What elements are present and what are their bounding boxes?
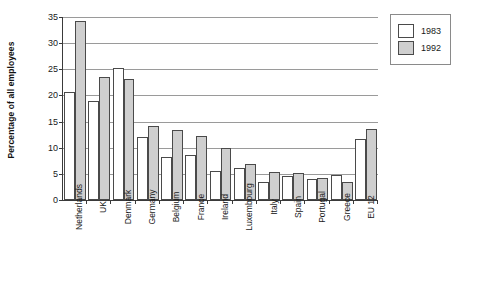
bar-1992 (99, 77, 110, 200)
legend: 1983 1992 (390, 14, 451, 65)
bar-group (136, 17, 160, 200)
bar-1983 (185, 155, 196, 200)
y-axis-tick-label: 0 (53, 195, 58, 205)
bar-series-container (63, 17, 378, 200)
bar-group (281, 17, 305, 200)
bar-group (160, 17, 184, 200)
x-axis-label-text: Spain (293, 196, 303, 218)
plot-area: 05101520253035 (62, 17, 378, 201)
x-axis-label-text: Luxembourg (244, 183, 254, 230)
legend-swatch-1992-icon (398, 41, 414, 55)
x-axis-label: Denmark (111, 205, 135, 283)
bar-group (208, 17, 232, 200)
x-axis-tick-mark (207, 200, 208, 204)
y-axis-tick-label: 25 (48, 64, 58, 74)
x-axis-tick-mark (86, 200, 87, 204)
x-axis-label-text: Germany (147, 190, 157, 225)
bar-group (233, 17, 257, 200)
bar-1983 (258, 182, 269, 200)
y-axis-title-text: Percentage of all employees (6, 41, 16, 158)
y-axis-tick-label: 10 (48, 143, 58, 153)
x-axis-label: Netherlands (62, 205, 86, 283)
bar-1983 (355, 139, 366, 200)
x-axis-label-text: Belgium (171, 192, 181, 223)
legend-swatch-1983-icon (398, 24, 414, 38)
x-axis-label-text: Netherlands (74, 184, 84, 230)
bar-1992 (172, 130, 183, 200)
x-axis-label-text: Denmark (123, 190, 133, 224)
legend-item-1983: 1983 (398, 24, 441, 38)
x-axis-tick-mark (159, 200, 160, 204)
x-axis-tick-mark (110, 200, 111, 204)
x-axis-label: Portugal (305, 205, 329, 283)
x-axis-tick-mark (353, 200, 354, 204)
x-axis-label: Spain (281, 205, 305, 283)
x-axis-label-text: France (196, 194, 206, 220)
bar-1992 (196, 136, 207, 200)
legend-label-1992: 1992 (421, 43, 441, 53)
x-axis-label: France (184, 205, 208, 283)
bar-group (87, 17, 111, 200)
y-axis-tick-label: 35 (48, 12, 58, 22)
y-axis-tick-label: 15 (48, 117, 58, 127)
bar-group (354, 17, 378, 200)
legend-item-1992: 1992 (398, 41, 441, 55)
y-axis-tick-label: 30 (48, 38, 58, 48)
bar-group (63, 17, 87, 200)
x-axis-tick-mark (232, 200, 233, 204)
x-axis-tick-mark (135, 200, 136, 204)
bar-1992 (75, 21, 86, 200)
x-axis-label-text: Greece (342, 193, 352, 221)
x-axis-label-text: UK (98, 201, 108, 213)
x-axis-label-text: EU 12 (366, 195, 376, 219)
bar-1983 (210, 171, 221, 200)
legend-label-1983: 1983 (421, 26, 441, 36)
x-axis-tick-mark (329, 200, 330, 204)
bar-group (184, 17, 208, 200)
x-axis-tick-mark (377, 200, 378, 204)
bar-group (257, 17, 281, 200)
bar-1983 (88, 101, 99, 200)
x-axis-label: UK (86, 205, 110, 283)
y-axis-title: Percentage of all employees (2, 0, 20, 200)
x-axis-label: Italy (257, 205, 281, 283)
bar-1983 (282, 176, 293, 200)
bar-group (305, 17, 329, 200)
x-axis-label: Luxembourg (232, 205, 256, 283)
x-axis-label-text: Portugal (317, 191, 327, 223)
x-axis-label-text: Italy (269, 199, 279, 215)
x-axis-tick-mark (183, 200, 184, 204)
x-axis-label: EU 12 (354, 205, 378, 283)
bar-group (111, 17, 135, 200)
bar-1983 (331, 175, 342, 200)
bar-1992 (221, 148, 232, 200)
bar-1992 (366, 129, 377, 200)
x-axis-label: Germany (135, 205, 159, 283)
x-axis-tick-mark (304, 200, 305, 204)
bar-group (330, 17, 354, 200)
x-axis-label: Greece (329, 205, 353, 283)
bar-chart: Percentage of all employees 051015202530… (0, 0, 492, 287)
x-axis-label: Belgium (159, 205, 183, 283)
x-axis-label-text: Ireland (220, 194, 230, 220)
bar-1983 (307, 179, 318, 200)
y-axis-tick-mark (59, 200, 63, 201)
bar-1992 (124, 79, 135, 200)
x-axis-tick-mark (280, 200, 281, 204)
bar-1992 (269, 172, 280, 200)
x-axis-labels: NetherlandsUKDenmarkGermanyBelgiumFrance… (62, 205, 378, 283)
x-axis-label: Ireland (208, 205, 232, 283)
y-axis-tick-label: 20 (48, 90, 58, 100)
x-axis-tick-mark (256, 200, 257, 204)
y-axis-tick-label: 5 (53, 169, 58, 179)
bar-1983 (113, 68, 124, 200)
